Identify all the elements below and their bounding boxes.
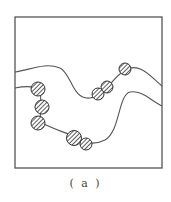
hatched-particle xyxy=(101,81,113,93)
figure-caption: ( a ) xyxy=(0,177,171,190)
hatched-particle xyxy=(31,116,45,130)
hatched-particle xyxy=(31,82,45,96)
hatched-particle xyxy=(119,63,131,75)
hatched-particle xyxy=(35,100,49,114)
diagram-figure xyxy=(0,0,171,202)
hatched-particle xyxy=(80,138,92,150)
hatched-particle xyxy=(67,131,82,146)
